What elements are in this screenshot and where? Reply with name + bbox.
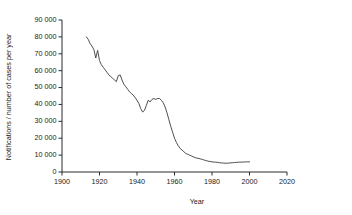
y-axis-title: Notifications / number of cases per year bbox=[4, 33, 13, 160]
x-tick-label: 1900 bbox=[54, 177, 70, 186]
x-tick-label: 1980 bbox=[204, 177, 220, 186]
y-tick-label: 70 000 bbox=[35, 49, 57, 58]
line-chart: 010 00020 00030 00040 00050 00060 00070 … bbox=[0, 0, 352, 215]
x-tick-label: 1960 bbox=[167, 177, 183, 186]
x-axis-title: Year bbox=[190, 197, 205, 206]
x-tick-label: 1920 bbox=[92, 177, 108, 186]
y-tick-label: 30 000 bbox=[35, 116, 57, 125]
y-tick-label: 40 000 bbox=[35, 99, 57, 108]
y-tick-label: 90 000 bbox=[35, 15, 57, 24]
y-tick-label: 50 000 bbox=[35, 82, 57, 91]
x-tick-label: 2020 bbox=[279, 177, 295, 186]
y-tick-label: 20 000 bbox=[35, 133, 57, 142]
y-tick-label: 10 000 bbox=[35, 150, 57, 159]
y-tick-label: 0 bbox=[53, 167, 57, 176]
y-tick-label: 60 000 bbox=[35, 66, 57, 75]
x-tick-label: 2000 bbox=[242, 177, 258, 186]
chart-container: 010 00020 00030 00040 00050 00060 00070 … bbox=[0, 0, 352, 215]
x-tick-label: 1940 bbox=[129, 177, 145, 186]
y-tick-label: 80 000 bbox=[35, 32, 57, 41]
